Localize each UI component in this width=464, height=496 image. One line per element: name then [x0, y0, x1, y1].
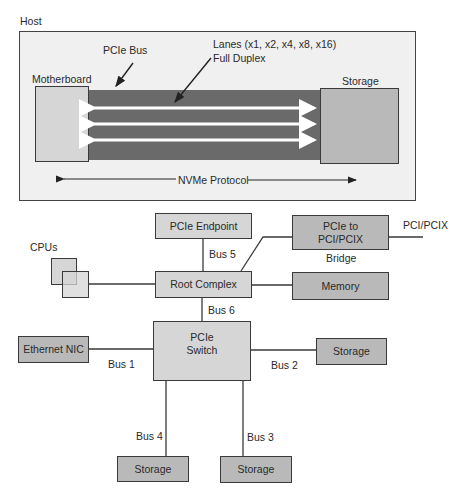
pcie-bus-pointer-arrow: [116, 63, 133, 86]
lanes-pointer-arrow: [175, 58, 211, 102]
lane-arrows: [94, 108, 314, 140]
bridge-line: [241, 237, 292, 271]
connector-lines: [0, 0, 464, 496]
